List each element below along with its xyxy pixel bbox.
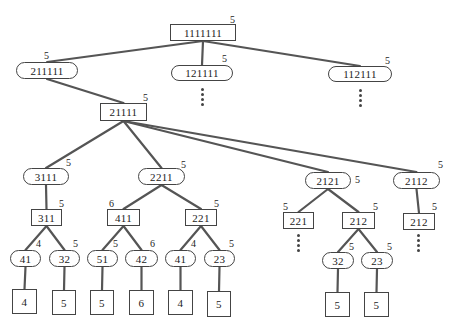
node-weight: 5	[214, 199, 219, 209]
node-weight: 5	[73, 239, 78, 249]
tree-edge	[47, 41, 203, 62]
tree-edge	[124, 226, 142, 250]
node-weight: 5	[349, 242, 354, 252]
node-label: 2211	[150, 171, 173, 183]
node-label: 2121	[316, 175, 339, 187]
node-weight: 4	[191, 239, 196, 249]
tree-edge	[124, 121, 417, 172]
dot	[201, 88, 204, 91]
leaf-node: 5	[90, 290, 114, 315]
node-label: 5	[374, 299, 380, 311]
rounded-node: 2211	[138, 168, 185, 185]
rect-node: 311	[31, 209, 62, 226]
node-weight: 5	[355, 175, 360, 185]
node-weight: 5	[44, 51, 49, 61]
rect-node: 221	[283, 212, 314, 229]
rect-node: 212	[342, 212, 375, 229]
tree-edge	[162, 185, 202, 209]
ellipsis-vertical-icon	[201, 88, 205, 108]
dot	[417, 244, 420, 247]
node-weight: 5	[222, 54, 227, 64]
node-weight: 5	[373, 202, 378, 212]
leaf-node: 4	[168, 290, 193, 315]
rounded-node: 41	[10, 250, 41, 267]
tree-edge	[219, 267, 220, 291]
node-label: 23	[371, 255, 383, 267]
tree-edge	[46, 121, 124, 168]
rect-node: 411	[107, 209, 140, 226]
node-label: 311	[38, 212, 55, 224]
node-label: 221	[192, 212, 209, 224]
rect-node: 1111111	[170, 24, 236, 41]
dot	[297, 234, 300, 237]
node-label: 51	[97, 253, 109, 265]
dot	[417, 249, 420, 252]
dot	[297, 249, 300, 252]
tree-edge	[417, 189, 420, 213]
ellipsis-vertical-icon	[297, 234, 301, 254]
node-weight: 5	[143, 93, 148, 103]
tree-edge	[328, 189, 359, 212]
tree-edge	[201, 226, 220, 250]
node-weight: 5	[59, 199, 64, 209]
dot	[417, 234, 420, 237]
node-weight: 4	[36, 239, 41, 249]
tree-edge	[377, 269, 378, 292]
rounded-node: 51	[87, 250, 118, 267]
node-label: 2112	[405, 175, 428, 187]
node-label: 5	[61, 297, 67, 309]
tree-edge	[124, 121, 329, 172]
rect-node: 21111	[100, 103, 147, 121]
leaf-node: 5	[364, 292, 389, 317]
node-label: 112111	[343, 68, 377, 80]
node-label: 41	[175, 253, 187, 265]
tree-edge	[47, 79, 124, 103]
tree-edge	[102, 267, 103, 290]
dot	[297, 239, 300, 242]
dot	[359, 89, 362, 92]
rounded-node: 211111	[16, 62, 78, 79]
node-weight: 5	[66, 158, 71, 168]
rounded-node: 23	[361, 252, 393, 269]
node-weight: 5	[387, 242, 392, 252]
rounded-node: 112111	[328, 66, 392, 82]
node-label: 5	[99, 297, 105, 309]
node-label: 1111111	[184, 27, 222, 39]
node-weight: 5	[230, 15, 235, 25]
node-label: 211111	[30, 65, 63, 77]
leaf-node: 4	[12, 289, 37, 314]
tree-edge	[64, 267, 65, 290]
tree-edge	[338, 269, 339, 292]
node-label: 4	[22, 296, 28, 308]
node-weight: 5	[385, 56, 390, 66]
node-label: 42	[136, 253, 148, 265]
node-label: 121111	[185, 67, 219, 79]
node-weight: 5	[283, 202, 288, 212]
tree-edge	[46, 185, 47, 209]
tree-edge	[124, 185, 162, 209]
node-label: 6	[139, 297, 145, 309]
node-label: 221	[290, 215, 307, 227]
dot	[417, 239, 420, 242]
rounded-node: 2112	[393, 172, 440, 189]
rect-node: 212	[403, 213, 435, 230]
rounded-node: 121111	[171, 65, 233, 81]
dot	[359, 104, 362, 107]
rect-node: 221	[185, 209, 217, 226]
rounded-node: 42	[125, 250, 158, 267]
leaf-node: 5	[325, 292, 350, 317]
node-label: 5	[216, 298, 222, 310]
dot	[201, 93, 204, 96]
node-weight: 5	[432, 202, 437, 212]
node-label: 32	[332, 255, 344, 267]
leaf-node: 5	[207, 291, 231, 317]
dot	[297, 244, 300, 247]
node-label: 411	[115, 212, 132, 224]
ellipsis-vertical-icon	[417, 234, 421, 254]
tree-edge	[47, 226, 65, 250]
tree-diagram: 1111111521111151211115112111521111531115…	[0, 0, 454, 329]
node-label: 21111	[110, 106, 138, 118]
node-weight: 5	[181, 160, 186, 170]
node-weight: 5	[438, 160, 443, 170]
node-weight: 5	[229, 239, 234, 249]
